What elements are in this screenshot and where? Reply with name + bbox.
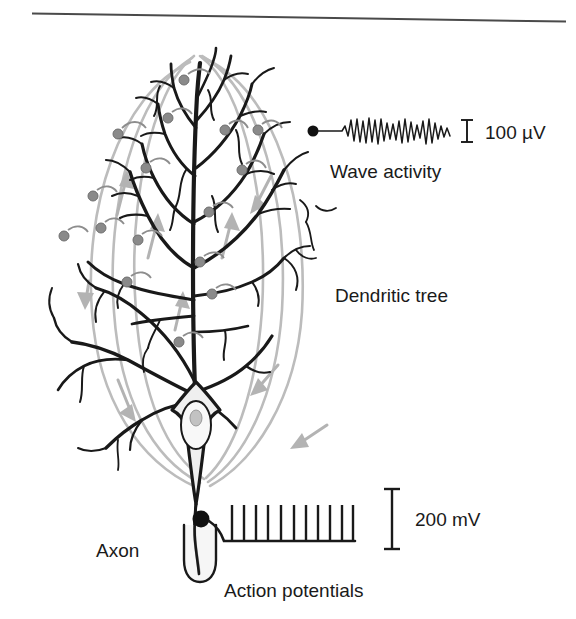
figure-canvas: 200 mV 100 µV Wave activity Dendritic tr… bbox=[0, 0, 576, 619]
dendrite-twig bbox=[117, 440, 118, 470]
eeg-scale-label: 100 µV bbox=[485, 122, 546, 143]
spike-scale-label: 200 mV bbox=[415, 509, 481, 530]
eeg-electrode-dot bbox=[308, 126, 319, 137]
nucleolus bbox=[190, 410, 202, 426]
action-potentials-label: Action potentials bbox=[224, 580, 363, 601]
axon-label: Axon bbox=[96, 540, 139, 561]
dendritic-tree-label: Dendritic tree bbox=[335, 285, 448, 306]
figure-background bbox=[0, 0, 576, 619]
wave-activity-label: Wave activity bbox=[330, 161, 442, 182]
axon-electrode-dot bbox=[193, 511, 210, 528]
neuron-figure: 200 mV 100 µV Wave activity Dendritic tr… bbox=[0, 0, 576, 619]
